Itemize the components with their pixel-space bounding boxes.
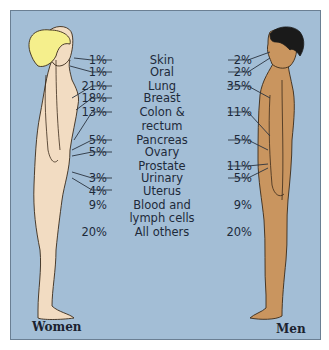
row-colon: 13% Colon & 11% xyxy=(0,105,329,119)
women-label: Women xyxy=(32,320,82,334)
row-rectum: rectum xyxy=(0,119,329,133)
row-uterus: 4% Uterus xyxy=(0,184,329,198)
row-all-others: 20% All others 20% xyxy=(0,225,329,239)
row-lymph: lymph cells xyxy=(0,211,329,225)
row-breast: 18% Breast xyxy=(0,91,329,105)
row-oral: 1% Oral 2% xyxy=(0,65,329,79)
row-blood: 9% Blood and 9% xyxy=(0,198,329,212)
row-urinary: 3% Urinary 5% xyxy=(0,171,329,185)
row-ovary: 5% Ovary xyxy=(0,145,329,159)
men-label: Men xyxy=(276,322,306,336)
